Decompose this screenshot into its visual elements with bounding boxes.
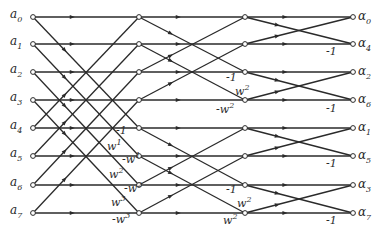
node-circle (351, 70, 356, 75)
node-circle (351, 42, 356, 47)
input-label: a7 (10, 203, 23, 220)
output-label: α2 (358, 64, 371, 81)
arrow-icon (275, 136, 277, 137)
butterfly-graph: a0a1a2a3a4a5a6a7α0α4α2α6α1α5α3α7-1w1-w1w… (0, 0, 386, 241)
fft-butterfly-diagram: a0a1a2a3a4a5a6a7α0α4α2α6α1α5α3α7-1w1-w1w… (0, 0, 386, 241)
arrows (63, 17, 285, 213)
input-label: a1 (10, 34, 22, 51)
twiddle-weight-label: -1 (116, 124, 127, 137)
input-label: a3 (10, 90, 22, 107)
node-circle (31, 42, 36, 47)
node-circle (31, 126, 36, 131)
input-label: a2 (10, 62, 22, 79)
arrow-icon (169, 168, 171, 169)
twiddle-weight-label: w2 (237, 195, 252, 210)
twiddle-weight-label: -1 (326, 214, 337, 227)
node-circle (137, 70, 142, 75)
output-label: α4 (358, 36, 371, 53)
arrow-icon (169, 60, 171, 61)
node-circle (137, 15, 142, 20)
node-circle (31, 183, 36, 188)
node-circle (31, 98, 36, 103)
twiddle-weight-label: -1 (326, 45, 337, 58)
node-circle (351, 183, 356, 188)
arrow-icon (275, 80, 277, 81)
node-circle (31, 154, 36, 159)
output-label: α3 (358, 177, 371, 194)
twiddle-weight-label: -1 (326, 157, 337, 170)
arrow-icon (275, 148, 277, 149)
node-circle (243, 70, 248, 75)
arrow-icon (275, 205, 277, 206)
arrow-icon (169, 32, 171, 33)
node-circle (243, 15, 248, 20)
node-circle (351, 98, 356, 103)
arrow-icon (169, 196, 171, 197)
twiddle-weight-label: w3 (111, 194, 126, 209)
arrow-icon (169, 172, 171, 173)
input-label: a5 (10, 146, 22, 163)
twiddle-weight-label: w2 (109, 166, 124, 181)
twiddle-weight-label: -1 (226, 71, 237, 84)
arrow-icon (275, 25, 277, 26)
twiddle-weight-label: w1 (107, 138, 122, 153)
arrow-icon (169, 83, 171, 84)
node-circle (351, 211, 356, 216)
node-circle (137, 211, 142, 216)
node-circle (31, 211, 36, 216)
twiddle-weight-label: -w1 (122, 151, 140, 166)
arrow-icon (275, 193, 277, 194)
input-label: a0 (10, 7, 22, 24)
arrow-icon (169, 144, 171, 145)
edges (33, 17, 353, 213)
node-circle (351, 15, 356, 20)
output-label: α0 (358, 9, 371, 26)
twiddle-weight-label: -1 (226, 183, 237, 196)
input-label: a6 (10, 175, 22, 192)
node-circle (243, 211, 248, 216)
arrow-icon (169, 56, 171, 57)
twiddle-weight-label: -w2 (216, 101, 234, 116)
twiddle-weight-label: -1 (326, 102, 337, 115)
twiddle-weight-label: w2 (235, 83, 250, 98)
node-circle (243, 98, 248, 103)
output-label: α6 (358, 92, 371, 109)
node-circle (243, 154, 248, 159)
node-circle (137, 42, 142, 47)
node-circle (31, 70, 36, 75)
node-circle (137, 126, 142, 131)
twiddle-weight-label: -w2 (124, 180, 142, 195)
node-circle (31, 15, 36, 20)
input-label: a4 (10, 118, 22, 135)
node-circle (243, 126, 248, 131)
node-circle (243, 183, 248, 188)
arrow-icon (275, 36, 277, 37)
output-label: α1 (358, 120, 371, 137)
twiddle-weight-label: -w3 (112, 211, 130, 226)
node-circle (351, 154, 356, 159)
output-label: α7 (358, 205, 372, 222)
node-circle (243, 42, 248, 47)
node-circle (351, 126, 356, 131)
twiddle-weight-label: w2 (223, 212, 238, 227)
output-label: α5 (358, 148, 371, 165)
node-circle (137, 98, 142, 103)
arrow-icon (275, 92, 277, 93)
